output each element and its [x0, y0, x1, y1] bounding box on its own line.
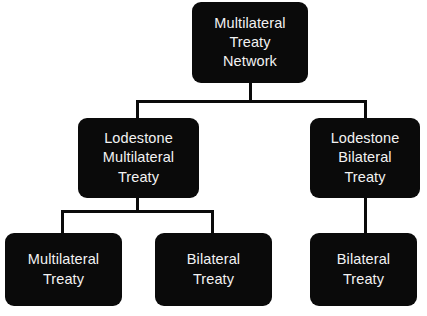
node-label: Bilateral Treaty — [333, 250, 394, 289]
node-lodestone-bilateral-treaty[interactable]: Lodestone Bilateral Treaty — [310, 118, 420, 198]
node-label: Bilateral Treaty — [183, 250, 244, 289]
diagram-canvas: Multilateral Treaty Network Lodestone Mu… — [0, 0, 427, 316]
edge-to-bilateral-treaty-left — [211, 210, 214, 234]
node-bilateral-treaty-right[interactable]: Bilateral Treaty — [310, 233, 417, 306]
edge-lodestone-multilateral-crossbar — [61, 210, 214, 213]
edge-to-multilateral-treaty — [61, 210, 64, 234]
node-label: Multilateral Treaty — [24, 250, 103, 289]
node-label: Multilateral Treaty Network — [210, 14, 289, 72]
edge-to-bilateral-treaty-right — [364, 197, 367, 234]
edge-root-crossbar — [136, 100, 367, 103]
node-multilateral-treaty-network[interactable]: Multilateral Treaty Network — [192, 2, 308, 83]
edge-root-to-lodestone-multilateral — [136, 100, 139, 119]
node-label: Lodestone Multilateral Treaty — [99, 129, 178, 187]
edge-root-to-lodestone-bilateral — [364, 100, 367, 119]
node-multilateral-treaty[interactable]: Multilateral Treaty — [5, 233, 122, 306]
node-lodestone-multilateral-treaty[interactable]: Lodestone Multilateral Treaty — [78, 118, 199, 198]
node-bilateral-treaty-left[interactable]: Bilateral Treaty — [155, 233, 272, 306]
node-label: Lodestone Bilateral Treaty — [327, 129, 404, 187]
